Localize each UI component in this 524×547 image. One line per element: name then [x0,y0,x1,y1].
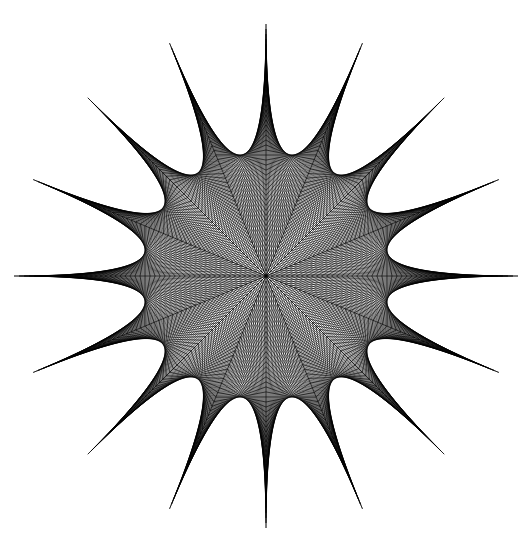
figure-canvas [0,0,524,547]
string-lines-group [14,24,518,528]
string-art-star-figure [0,0,524,547]
